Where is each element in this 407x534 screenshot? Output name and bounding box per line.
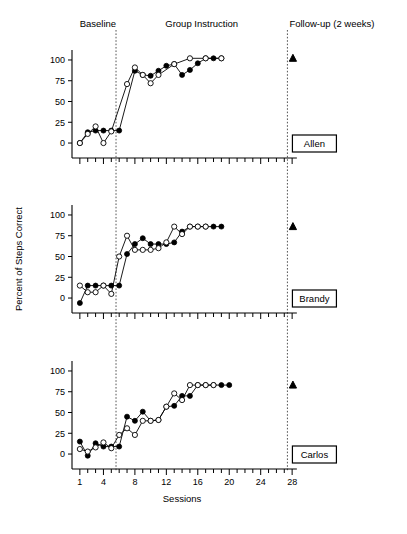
data-point-carlos-open-circle-5 bbox=[117, 432, 122, 437]
data-point-brandy-filled-circle-0 bbox=[77, 301, 82, 306]
y-tick-label-carlos-0: 0 bbox=[60, 449, 65, 459]
x-tick-label-4: 4 bbox=[101, 477, 106, 487]
series-line-carlos-open-circle bbox=[80, 385, 214, 451]
chart-canvas: BaselineGroup InstructionFollow-up (2 we… bbox=[0, 0, 407, 534]
y-tick-label-allen-50: 50 bbox=[55, 97, 65, 107]
y-tick-label-brandy-50: 50 bbox=[55, 252, 65, 262]
x-tick-label-16: 16 bbox=[193, 477, 203, 487]
data-point-allen-open-circle-9 bbox=[156, 72, 161, 77]
followup-marker-brandy bbox=[289, 223, 296, 230]
data-point-allen-open-circle-4 bbox=[109, 129, 114, 134]
data-point-carlos-filled-circle-18 bbox=[219, 383, 224, 388]
data-point-allen-filled-circle-14 bbox=[195, 61, 200, 66]
multiple-baseline-figure: BaselineGroup InstructionFollow-up (2 we… bbox=[0, 0, 407, 534]
y-tick-label-carlos-75: 75 bbox=[55, 387, 65, 397]
data-point-carlos-open-circle-16 bbox=[203, 382, 208, 387]
data-point-allen-open-circle-0 bbox=[77, 140, 82, 145]
data-point-allen-open-circle-11 bbox=[187, 56, 192, 61]
phase-label-baseline: Baseline bbox=[80, 18, 116, 29]
data-point-carlos-open-circle-0 bbox=[77, 446, 82, 451]
data-point-allen-open-circle-8 bbox=[148, 81, 153, 86]
series-line-brandy-filled-circle bbox=[80, 227, 222, 303]
y-tick-label-carlos-100: 100 bbox=[50, 366, 65, 376]
data-point-brandy-open-circle-6 bbox=[124, 233, 129, 238]
data-point-carlos-filled-circle-19 bbox=[227, 383, 232, 388]
data-point-brandy-open-circle-13 bbox=[179, 231, 184, 236]
data-point-carlos-open-circle-4 bbox=[109, 446, 114, 451]
y-axis-title: Percent of Steps Correct bbox=[13, 207, 24, 311]
data-point-brandy-open-circle-3 bbox=[101, 283, 106, 288]
data-point-carlos-filled-circle-5 bbox=[117, 444, 122, 449]
y-tick-label-carlos-50: 50 bbox=[55, 408, 65, 418]
followup-marker-allen bbox=[289, 54, 296, 61]
y-tick-label-brandy-0: 0 bbox=[60, 293, 65, 303]
y-tick-label-brandy-75: 75 bbox=[55, 231, 65, 241]
data-point-carlos-open-circle-11 bbox=[164, 404, 169, 409]
data-point-brandy-open-circle-9 bbox=[148, 247, 153, 252]
subject-label-carlos: Carlos bbox=[301, 449, 329, 460]
data-point-carlos-open-circle-1 bbox=[85, 449, 90, 454]
subject-label-allen: Allen bbox=[304, 138, 325, 149]
subject-label-brandy: Brandy bbox=[299, 293, 329, 304]
followup-marker-carlos bbox=[289, 381, 296, 388]
x-tick-label-24: 24 bbox=[256, 477, 266, 487]
data-point-allen-filled-circle-12 bbox=[180, 72, 185, 77]
y-tick-label-allen-25: 25 bbox=[55, 118, 65, 128]
data-point-carlos-open-circle-9 bbox=[148, 418, 153, 423]
data-point-allen-open-circle-13 bbox=[219, 56, 224, 61]
data-point-brandy-open-circle-7 bbox=[132, 247, 137, 252]
data-point-brandy-filled-circle-8 bbox=[140, 236, 145, 241]
data-point-brandy-filled-circle-6 bbox=[125, 252, 130, 257]
x-axis-title: Sessions bbox=[163, 493, 202, 504]
data-point-allen-filled-circle-13 bbox=[187, 67, 192, 72]
x-tick-label-20: 20 bbox=[224, 477, 234, 487]
data-point-carlos-open-circle-12 bbox=[172, 391, 177, 396]
data-point-brandy-open-circle-15 bbox=[195, 224, 200, 229]
data-point-carlos-filled-circle-7 bbox=[132, 418, 137, 423]
data-point-allen-open-circle-7 bbox=[140, 72, 145, 77]
data-point-brandy-filled-circle-5 bbox=[117, 283, 122, 288]
data-point-carlos-open-circle-14 bbox=[187, 382, 192, 387]
data-point-carlos-open-circle-8 bbox=[140, 418, 145, 423]
y-tick-label-allen-75: 75 bbox=[55, 76, 65, 86]
data-point-carlos-open-circle-2 bbox=[93, 445, 98, 450]
x-tick-label-8: 8 bbox=[132, 477, 137, 487]
data-point-brandy-open-circle-11 bbox=[164, 240, 169, 245]
y-tick-label-allen-0: 0 bbox=[60, 138, 65, 148]
data-point-allen-open-circle-5 bbox=[124, 81, 129, 86]
data-point-allen-filled-circle-3 bbox=[101, 128, 106, 133]
data-point-brandy-open-circle-12 bbox=[172, 224, 177, 229]
data-point-carlos-open-circle-7 bbox=[132, 432, 137, 437]
y-tick-label-brandy-25: 25 bbox=[55, 273, 65, 283]
data-point-allen-open-circle-1 bbox=[85, 131, 90, 136]
data-point-brandy-open-circle-5 bbox=[117, 254, 122, 259]
data-point-brandy-open-circle-4 bbox=[109, 291, 114, 296]
data-point-allen-filled-circle-10 bbox=[164, 63, 169, 68]
data-point-brandy-open-circle-10 bbox=[156, 246, 161, 251]
data-point-allen-open-circle-10 bbox=[172, 62, 177, 67]
data-point-carlos-filled-circle-6 bbox=[125, 414, 130, 419]
data-point-carlos-filled-circle-14 bbox=[187, 393, 192, 398]
data-point-carlos-open-circle-3 bbox=[101, 440, 106, 445]
data-point-carlos-open-circle-13 bbox=[179, 397, 184, 402]
data-point-brandy-filled-circle-17 bbox=[211, 224, 216, 229]
x-tick-label-1: 1 bbox=[77, 477, 82, 487]
data-point-carlos-filled-circle-12 bbox=[172, 403, 177, 408]
data-point-carlos-filled-circle-0 bbox=[77, 439, 82, 444]
data-point-carlos-open-circle-17 bbox=[211, 382, 216, 387]
data-point-brandy-open-circle-8 bbox=[140, 247, 145, 252]
y-tick-label-allen-100: 100 bbox=[50, 55, 65, 65]
data-point-brandy-filled-circle-18 bbox=[219, 224, 224, 229]
data-point-allen-filled-circle-8 bbox=[148, 73, 153, 78]
phase-label-follow-up: Follow-up (2 weeks) bbox=[289, 18, 374, 29]
phase-label-group-instruction: Group Instruction bbox=[165, 18, 238, 29]
data-point-allen-open-circle-2 bbox=[93, 124, 98, 129]
data-point-brandy-open-circle-14 bbox=[187, 224, 192, 229]
data-point-brandy-open-circle-1 bbox=[85, 290, 90, 295]
y-tick-label-brandy-100: 100 bbox=[50, 210, 65, 220]
data-point-allen-open-circle-3 bbox=[101, 140, 106, 145]
data-point-brandy-open-circle-2 bbox=[93, 290, 98, 295]
data-point-brandy-open-circle-0 bbox=[77, 283, 82, 288]
y-tick-label-carlos-25: 25 bbox=[55, 429, 65, 439]
data-point-carlos-open-circle-15 bbox=[195, 382, 200, 387]
